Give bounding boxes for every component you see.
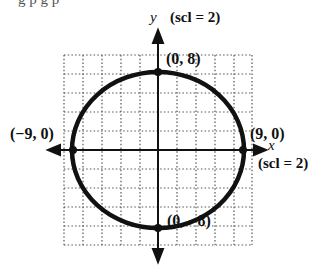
y-axis-label: y — [150, 10, 157, 25]
point-right — [239, 146, 247, 154]
x-axis-left-arrow-icon — [48, 145, 60, 155]
x-axis-scale-note: (scl = 2) — [258, 156, 308, 171]
point-top — [154, 68, 162, 76]
point-left-label: (−9, 0) — [10, 126, 54, 142]
point-top-label: (0, 8) — [166, 51, 201, 67]
y-axis-scale-note: (scl = 2) — [170, 10, 220, 25]
point-right-label: (9, 0) — [250, 126, 285, 142]
point-bottom-label: (0, −8) — [167, 213, 211, 229]
point-bottom — [154, 224, 162, 232]
y-axis-up-arrow-icon — [153, 30, 163, 43]
x-axis-right-arrow-icon — [254, 145, 266, 155]
y-axis-down-arrow-icon — [153, 249, 163, 262]
point-left — [69, 146, 77, 154]
